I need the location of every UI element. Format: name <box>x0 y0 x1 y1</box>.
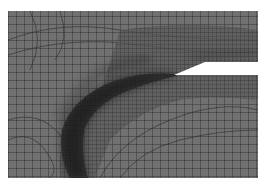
fe-mesh-diagram <box>0 0 270 188</box>
mesh-figure <box>0 0 270 188</box>
mesh-region <box>8 11 258 178</box>
